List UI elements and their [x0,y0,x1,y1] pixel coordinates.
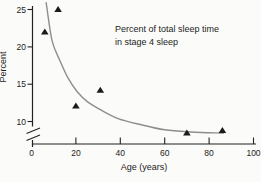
data-point-triangle [41,29,49,35]
annotation-line-1: Percent of total sleep time [115,23,219,36]
x-tick-label-80: 80 [204,148,214,158]
data-point-triangle [219,127,227,133]
y-tick-label-10: 10 [17,117,27,127]
y-axis-break-icon [27,128,41,141]
data-point-triangle [97,87,105,93]
y-tick-label-20: 20 [17,42,27,52]
annotation-line-2: in stage 4 sleep [115,36,219,49]
stage4-sleep-chart: 10152025020406080100 Percent of total sl… [0,0,261,182]
y-tick-label-25: 25 [17,5,27,15]
chart-annotation: Percent of total sleep time in stage 4 s… [115,23,219,48]
x-tick-label-40: 40 [116,148,126,158]
x-tick-label-20: 20 [71,148,81,158]
x-axis-title: Age (years) [89,162,199,172]
x-tick-label-60: 60 [160,148,170,158]
x-tick-label-0: 0 [29,148,34,158]
x-tick-label-100: 100 [246,148,260,158]
data-point-triangle [72,103,80,109]
data-point-triangle [54,6,62,12]
y-tick-label-15: 15 [17,79,27,89]
y-axis-title: Percent [0,47,8,87]
